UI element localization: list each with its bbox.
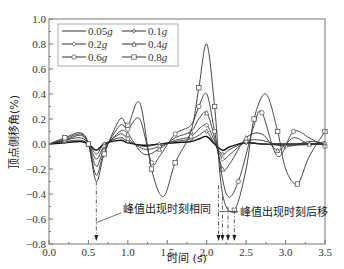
line-chart: 1.00.80.60.40.20.0−0.2−0.4−0.6−0.8 0.00.… bbox=[0, 0, 344, 269]
marker-circle bbox=[291, 129, 295, 133]
arrow-icon bbox=[232, 235, 236, 241]
marker-square bbox=[102, 152, 106, 156]
marker-square bbox=[126, 123, 130, 127]
marker-circle bbox=[260, 111, 264, 115]
y-tick-label: 0.8 bbox=[32, 38, 46, 50]
x-tick-label: 0.0 bbox=[42, 246, 56, 258]
annotation-delayed-peak-time: 峰值出现时刻后移 bbox=[240, 205, 328, 219]
marker-circle bbox=[72, 55, 76, 59]
x-tick-label: 2.5 bbox=[239, 246, 253, 258]
marker-circle bbox=[236, 179, 240, 183]
marker-square bbox=[86, 142, 90, 146]
marker-circle bbox=[173, 132, 177, 136]
marker-square bbox=[275, 129, 279, 133]
y-tick-label: 0.0 bbox=[32, 138, 46, 150]
y-tick-label: 0.6 bbox=[32, 63, 46, 75]
marker-triangle bbox=[205, 111, 209, 115]
legend-label: 0.2g bbox=[88, 38, 108, 50]
marker-square bbox=[295, 182, 299, 186]
leader-line bbox=[96, 213, 121, 223]
legend-label: 0.05g bbox=[88, 25, 113, 37]
annotations: 峰值出现时刻相同峰值出现时刻后移 bbox=[94, 182, 328, 242]
arrow-icon bbox=[217, 235, 221, 241]
legend: 0.05g0.1g0.2g0.4g0.6g0.8g bbox=[58, 24, 178, 66]
arrow-icon bbox=[94, 235, 98, 241]
y-tick-label: 1.0 bbox=[32, 13, 46, 25]
legend-label: 0.8g bbox=[148, 51, 168, 63]
legend-label: 0.4g bbox=[148, 38, 168, 50]
marker-square bbox=[197, 86, 201, 90]
x-axis-label: 时间 (s) bbox=[167, 252, 207, 265]
marker-square bbox=[252, 117, 256, 121]
x-tick-label: 3.0 bbox=[279, 246, 293, 258]
x-tick-label: 3.5 bbox=[318, 246, 332, 258]
arrow-icon bbox=[226, 235, 230, 241]
marker-square bbox=[132, 55, 136, 59]
legend-label: 0.1g bbox=[148, 25, 168, 37]
series-0_8g bbox=[49, 44, 327, 213]
marker-square bbox=[173, 161, 177, 165]
plot-series bbox=[49, 44, 327, 213]
arrow-icon bbox=[220, 235, 224, 241]
x-tick-label: 0.5 bbox=[82, 246, 96, 258]
marker-square bbox=[212, 104, 216, 108]
marker-square bbox=[63, 136, 67, 140]
y-tick-label: 0.4 bbox=[32, 88, 46, 100]
y-tick-label: −0.4 bbox=[26, 188, 46, 200]
marker-circle bbox=[197, 104, 201, 108]
y-tick-label: −0.2 bbox=[26, 163, 46, 175]
legend-label: 0.6g bbox=[88, 51, 108, 63]
x-tick-label: 1.0 bbox=[121, 246, 135, 258]
marker-square bbox=[149, 167, 153, 171]
y-axis-label: 顶点侧移角(%) bbox=[8, 95, 21, 169]
y-tick-label: −0.6 bbox=[26, 213, 46, 225]
y-tick-label: 0.2 bbox=[32, 113, 46, 125]
annotation-same-peak-time: 峰值出现时刻相同 bbox=[123, 202, 211, 216]
